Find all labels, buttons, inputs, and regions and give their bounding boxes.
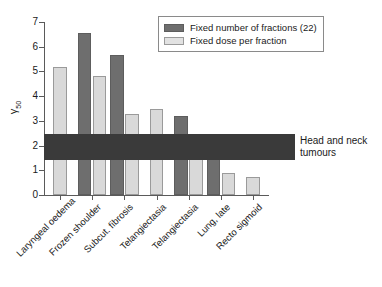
- y-tick-label-5: 5: [16, 66, 38, 76]
- bar-fixed-dose-5: [222, 173, 236, 195]
- bar-fixed-fractions-2: [110, 55, 124, 195]
- x-tick-3: [157, 196, 158, 200]
- legend-swatch-light-icon: [164, 37, 184, 45]
- chart-legend: Fixed number of fractions (22) Fixed dos…: [158, 16, 324, 52]
- band-label-line-1: Head and neck: [300, 135, 380, 147]
- y-axis-title-symbol: γ: [7, 109, 19, 115]
- x-tick-0: [60, 196, 61, 200]
- y-axis-title-subscript: 50: [15, 101, 22, 109]
- bar-fixed-dose-6: [246, 177, 260, 195]
- legend-label-1: Fixed dose per fraction: [190, 35, 287, 46]
- bar-fixed-dose-0: [53, 67, 67, 196]
- y-tick-0: [39, 195, 44, 196]
- x-tick-1: [92, 196, 93, 200]
- x-tick-2: [124, 196, 125, 200]
- y-tick-label-4: 4: [16, 91, 38, 101]
- y-tick-label-2: 2: [16, 141, 38, 151]
- legend-item-fixed-dose-per-fraction: Fixed dose per fraction: [164, 34, 317, 47]
- bar-fixed-fractions-1: [78, 33, 92, 195]
- y-tick-label-1: 1: [16, 165, 38, 175]
- legend-swatch-dark-icon: [164, 24, 184, 32]
- y-tick-label-3: 3: [16, 116, 38, 126]
- x-tick-6: [253, 196, 254, 200]
- y-tick-label-7: 7: [16, 17, 38, 27]
- legend-item-fixed-number-of-fractions: Fixed number of fractions (22): [164, 21, 317, 34]
- x-tick-5: [221, 196, 222, 200]
- head-and-neck-tumours-label: Head and neck tumours: [300, 135, 380, 159]
- head-and-neck-tumours-band: [44, 134, 295, 159]
- chart-figure: γ50 01234567 Head and neck tumours Laryn…: [0, 0, 382, 287]
- category-label-0: Laryngeal oedema: [15, 202, 72, 259]
- band-label-line-2: tumours: [300, 147, 380, 159]
- y-tick-label-6: 6: [16, 42, 38, 52]
- x-tick-4: [189, 196, 190, 200]
- y-tick-label-0: 0: [16, 190, 38, 200]
- legend-label-0: Fixed number of fractions (22): [190, 22, 317, 33]
